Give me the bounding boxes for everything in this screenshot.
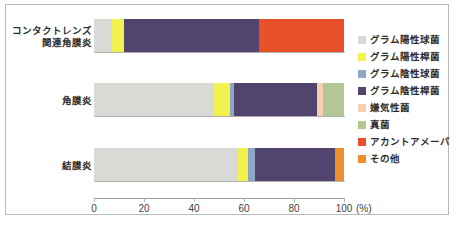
bar-row <box>94 83 344 116</box>
x-tick-label: 0 <box>91 203 97 214</box>
x-axis-unit-label: (%) <box>356 203 372 214</box>
x-tick <box>344 198 345 202</box>
bar-segment <box>248 148 256 181</box>
legend-swatch-icon <box>358 104 366 112</box>
legend-item[interactable]: その他 <box>358 150 450 167</box>
category-label-0-line2: 関連角膜炎 <box>8 37 92 49</box>
bar-row <box>94 19 344 52</box>
chart-legend: グラム陽性球菌グラム陽性桿菌グラム陰性球菌グラム陰性桿菌嫌気性菌真菌アカントアメ… <box>358 31 450 167</box>
bar-segment <box>234 83 317 116</box>
legend-label: その他 <box>370 154 400 164</box>
bar-segment <box>94 83 214 116</box>
category-label-2-line1: 結膜炎 <box>8 160 92 172</box>
bar-segment <box>255 148 335 181</box>
legend-item[interactable]: アカントアメーバ <box>358 133 450 150</box>
x-tick-label: 80 <box>288 203 299 214</box>
bar-segment <box>214 83 230 116</box>
bar-row <box>94 148 344 181</box>
x-tick-label: 40 <box>188 203 199 214</box>
plot-area: 020406080100(%) <box>94 13 344 198</box>
chart-figure: コンタクトレンズ 関連角膜炎 角膜炎 結膜炎 020406080100(%) グ… <box>0 0 457 239</box>
x-tick <box>94 198 95 202</box>
category-label-1-line1: 角膜炎 <box>8 95 92 107</box>
x-axis-line <box>94 198 345 199</box>
legend-swatch-icon <box>358 87 366 95</box>
bar-segment <box>323 83 344 116</box>
bar-segment <box>335 148 344 181</box>
legend-label: 真菌 <box>370 120 390 130</box>
bar-segment <box>94 148 238 181</box>
category-label-1: 角膜炎 <box>8 95 92 107</box>
legend-item[interactable]: グラム陰性桿菌 <box>358 82 450 99</box>
legend-label: 嫌気性菌 <box>370 103 410 113</box>
x-tick <box>144 198 145 202</box>
stacked-bars <box>94 13 344 198</box>
x-tick <box>294 198 295 202</box>
legend-swatch-icon <box>358 53 366 61</box>
bar-segment <box>94 19 112 52</box>
x-tick <box>244 198 245 202</box>
legend-label: グラム陽性桿菌 <box>370 52 440 62</box>
bar-baseline <box>94 52 345 53</box>
legend-item[interactable]: 嫌気性菌 <box>358 99 450 116</box>
x-tick <box>194 198 195 202</box>
legend-swatch-icon <box>358 36 366 44</box>
category-label-2: 結膜炎 <box>8 160 92 172</box>
legend-swatch-icon <box>358 70 366 78</box>
legend-item[interactable]: 真菌 <box>358 116 450 133</box>
legend-swatch-icon <box>358 155 366 163</box>
x-tick-label: 100 <box>336 203 353 214</box>
legend-label: グラム陰性桿菌 <box>370 86 440 96</box>
legend-label: アカントアメーバ <box>370 137 450 147</box>
x-tick-label: 20 <box>138 203 149 214</box>
x-tick-label: 60 <box>238 203 249 214</box>
legend-item[interactable]: グラム陰性球菌 <box>358 65 450 82</box>
legend-swatch-icon <box>358 138 366 146</box>
category-axis: コンタクトレンズ 関連角膜炎 角膜炎 結膜炎 <box>6 13 92 198</box>
category-label-0: コンタクトレンズ 関連角膜炎 <box>8 25 92 49</box>
legend-item[interactable]: グラム陽性球菌 <box>358 31 450 48</box>
category-label-0-line1: コンタクトレンズ <box>8 25 92 37</box>
bar-baseline <box>94 116 345 117</box>
bar-segment <box>112 19 125 52</box>
legend-label: グラム陰性球菌 <box>370 69 440 79</box>
chart-frame: コンタクトレンズ 関連角膜炎 角膜炎 結膜炎 020406080100(%) グ… <box>5 4 449 215</box>
bar-segment <box>238 148 248 181</box>
legend-swatch-icon <box>358 121 366 129</box>
bar-segment <box>259 19 344 52</box>
bar-baseline <box>94 181 345 182</box>
legend-label: グラム陽性球菌 <box>370 35 440 45</box>
legend-item[interactable]: グラム陽性桿菌 <box>358 48 450 65</box>
bar-segment <box>124 19 259 52</box>
